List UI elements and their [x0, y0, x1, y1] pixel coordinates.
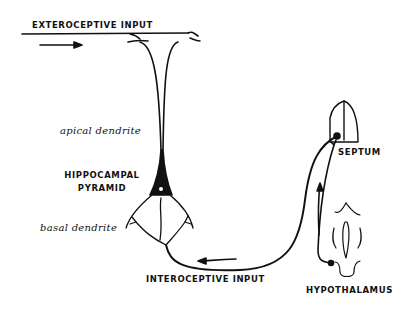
exteroceptive-input-label: EXTEROCEPTIVE INPUT: [32, 20, 153, 30]
basal-dendrite: [126, 195, 193, 245]
hypothalamus-label: HYPOTHALAMUS: [306, 285, 393, 295]
hypothalamic-fiber: [318, 140, 336, 263]
arrow-left-icon: [198, 258, 236, 264]
pyramid-label: PYRAMID: [62, 183, 142, 193]
septum-label: SEPTUM: [338, 147, 381, 157]
arrow-right-icon: [40, 42, 82, 48]
interoceptive-axon: [166, 136, 337, 270]
interoceptive-input-label: INTEROCEPTIVE INPUT: [146, 274, 265, 284]
apical-dendrite: [140, 42, 178, 150]
basal-dendrite-label: basal dendrite: [40, 222, 117, 233]
hypothalamus-shape: [333, 203, 361, 277]
apical-dendrite-label: apical dendrite: [60, 125, 141, 136]
diagram-canvas: EXTEROCEPTIVE INPUT apical dendrite HIPP…: [0, 0, 415, 311]
hippocampal-label: HIPPOCAMPAL: [62, 170, 142, 180]
exteroceptive-axon: [22, 32, 200, 42]
